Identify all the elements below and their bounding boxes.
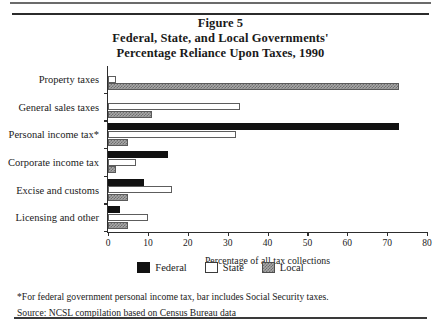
x-axis-tick <box>228 232 229 236</box>
bar-federal-5 <box>108 179 144 186</box>
x-axis-tick-label: 10 <box>143 238 153 248</box>
figure-title-line-1: Federal, State, and Local Governments' <box>0 31 441 46</box>
x-axis-tick-label: 70 <box>382 238 392 248</box>
x-axis-tick-label: 40 <box>263 238 273 248</box>
bar-chart: Property taxesGeneral sales taxesPersona… <box>0 66 441 246</box>
figure-title-line-2: Percentage Reliance Upon Taxes, 1990 <box>0 46 441 61</box>
legend-label: Federal <box>155 262 187 273</box>
bar-federal-4 <box>108 151 168 158</box>
legend-item-federal: Federal <box>137 262 187 273</box>
bar-local-5 <box>108 194 128 201</box>
x-axis-tick-label: 0 <box>106 238 111 248</box>
y-axis-tick <box>104 120 108 121</box>
y-axis-tick <box>104 231 108 232</box>
footnote-asterisk: *For federal government personal income … <box>17 291 329 303</box>
category-label: Property taxes <box>39 74 99 85</box>
legend-swatch-icon <box>262 262 275 273</box>
bar-state-4 <box>108 159 136 166</box>
x-axis-tick-label: 80 <box>422 238 432 248</box>
x-axis-tick-label: 30 <box>223 238 233 248</box>
x-axis-tick <box>347 232 348 236</box>
bar-state-3 <box>108 131 236 138</box>
legend-label: State <box>223 262 244 273</box>
bar-federal-6 <box>108 206 120 213</box>
x-axis-tick-label: 60 <box>343 238 353 248</box>
x-axis-tick <box>188 232 189 236</box>
y-axis-tick <box>104 93 108 94</box>
bar-state-2 <box>108 103 240 110</box>
legend-swatch-icon <box>205 262 218 273</box>
x-axis-tick <box>268 232 269 236</box>
x-axis-tick <box>108 232 109 236</box>
legend-swatch-icon <box>137 262 150 273</box>
x-axis-tick-label: 50 <box>303 238 313 248</box>
title-rule-divider <box>12 13 429 15</box>
legend-item-state: State <box>205 262 244 273</box>
category-label: Licensing and other <box>16 212 99 223</box>
x-axis-tick <box>387 232 388 236</box>
x-axis-tick <box>427 232 428 236</box>
category-axis-labels: Property taxesGeneral sales taxesPersona… <box>0 66 103 232</box>
plot-area: 01020304050607080 <box>108 66 427 232</box>
bar-local-4 <box>108 166 116 173</box>
y-axis-tick <box>104 176 108 177</box>
bar-state-5 <box>108 186 172 193</box>
figure-title: Figure 5 Federal, State, and Local Gover… <box>0 16 441 61</box>
legend-item-local: Local <box>262 262 304 273</box>
y-axis-tick <box>104 203 108 204</box>
category-label: General sales taxes <box>19 102 99 113</box>
bar-state-1 <box>108 76 116 83</box>
bottom-rule-divider <box>14 317 427 319</box>
x-axis-tick <box>307 232 308 236</box>
top-rule-divider <box>10 2 431 4</box>
chart-legend: FederalStateLocal <box>0 262 441 273</box>
category-label: Personal income tax* <box>9 129 99 140</box>
figure-page: Figure 5 Federal, State, and Local Gover… <box>0 0 441 327</box>
bar-local-1 <box>108 83 399 90</box>
bar-local-3 <box>108 139 128 146</box>
figure-number: Figure 5 <box>0 16 441 31</box>
x-axis-tick <box>148 232 149 236</box>
category-label: Excise and customs <box>16 185 99 196</box>
bar-federal-3 <box>108 123 399 130</box>
bar-local-6 <box>108 222 128 229</box>
category-label: Corporate income tax <box>8 157 99 168</box>
bar-state-6 <box>108 214 148 221</box>
y-axis-tick <box>104 148 108 149</box>
legend-label: Local <box>280 262 304 273</box>
bar-local-2 <box>108 111 152 118</box>
x-axis-tick-label: 20 <box>183 238 193 248</box>
